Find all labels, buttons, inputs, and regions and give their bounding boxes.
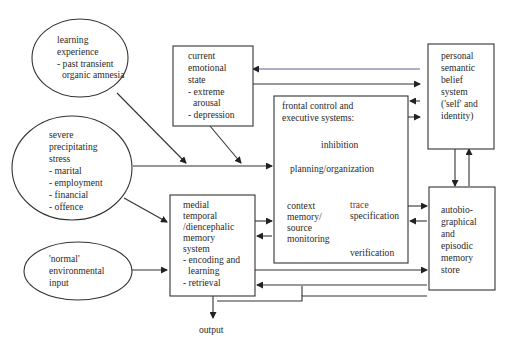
node-medial-temporal: medial temporal /diencephalic memory sys… (170, 195, 255, 296)
output-label: output (199, 324, 224, 335)
node-learning-line-3: - past transient (57, 58, 114, 69)
frontal-context-line-4: monitoring (287, 233, 330, 244)
frontal-title-line-1: frontal control and (282, 100, 354, 111)
node-stress-line-7: - offence (49, 201, 83, 212)
node-semantic-line-4: system (441, 86, 468, 97)
node-medial-line-1: medial (183, 199, 209, 210)
frontal-trace-line-2: specification (350, 210, 399, 221)
node-normal-input: 'normal' environmental input (24, 242, 132, 300)
node-stress-line-3: stress (49, 153, 71, 164)
frontal-context-line-1: context (287, 200, 316, 211)
edge-stress-to-medial (124, 198, 167, 222)
node-autobio-line-2: graphical (441, 216, 477, 227)
frontal-trace-line-1: trace (350, 199, 369, 210)
node-autobio-line-6: store (441, 264, 460, 275)
node-autobio-line-4: episodic (441, 240, 473, 251)
node-learning-line-2: experience (57, 46, 99, 57)
frontal-title-line-2: executive systems: (282, 112, 354, 123)
node-medial-line-5: system (183, 243, 210, 254)
node-emotional-line-2: emotional (188, 62, 227, 73)
node-semantic-line-3: belief (441, 74, 464, 85)
frontal-context-line-3: source (287, 222, 312, 233)
node-normal-line-1: 'normal' (49, 253, 80, 264)
node-learning-line-4: organic amnesia (62, 69, 125, 80)
memory-model-diagram: learning experience - past transient org… (0, 0, 512, 350)
node-autobio-line-3: and (441, 228, 455, 239)
node-medial-line-6: - encoding and (183, 254, 240, 265)
node-medial-line-7: learning (188, 265, 220, 276)
node-emotional-line-5: arousal (193, 97, 221, 108)
node-autobio-line-1: autobio- (441, 204, 473, 215)
node-semantic-line-6: identity) (441, 110, 474, 122)
frontal-verification: verification (350, 247, 394, 258)
node-stress-line-1: severe (49, 129, 74, 140)
node-stress-line-2: precipitating (49, 141, 98, 152)
node-semantic-line-1: personal (441, 50, 474, 61)
node-normal-line-2: environmental (49, 265, 105, 276)
edge-emotional-to-main-line (210, 126, 241, 163)
node-medial-line-2: temporal (183, 210, 217, 221)
node-emotional-line-3: state (188, 74, 206, 85)
node-emotional-line-1: current (188, 50, 215, 61)
node-medial-line-4: memory (183, 232, 215, 243)
node-stress-line-5: - employment (49, 177, 103, 188)
node-semantic-line-5: ('self' and (441, 98, 478, 110)
node-learning-line-1: learning (57, 34, 89, 45)
node-stress-line-6: - financial (49, 189, 88, 200)
edge-autobio-to-output-path (217, 296, 427, 301)
node-autobiographical-store: autobio- graphical and episodic memory s… (429, 187, 495, 290)
node-severe-stress: severe precipitating stress - marital - … (12, 116, 132, 220)
node-stress-line-4: - marital (49, 165, 82, 176)
node-frontal-control: frontal control and executive systems: i… (274, 96, 408, 263)
frontal-context-line-2: memory/ (287, 211, 322, 222)
node-emotional-state: current emotional state - extreme arousa… (173, 46, 253, 126)
frontal-inhibition: inhibition (321, 139, 359, 150)
node-semantic-belief: personal semantic belief system ('self' … (428, 44, 494, 149)
node-medial-line-3: /diencephalic (183, 221, 234, 232)
node-medial-line-8: - retrieval (183, 277, 221, 288)
node-learning-experience: learning experience - past transient org… (32, 19, 128, 97)
frontal-planning: planning/organization (290, 163, 374, 174)
node-emotional-line-6: - depression (188, 109, 235, 120)
node-semantic-line-2: semantic (441, 62, 475, 73)
node-emotional-line-4: - extreme (188, 86, 225, 97)
node-autobio-line-5: memory (441, 252, 473, 263)
node-normal-line-3: input (49, 277, 69, 288)
